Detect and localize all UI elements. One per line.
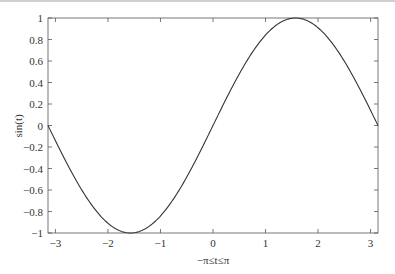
sine-chart: −3−2−10123 −1−0.8−0.6−0.4−0.200.20.40.60… — [0, 0, 395, 274]
x-tick-labels: −3−2−10123 — [50, 237, 374, 249]
x-tick-label: 2 — [315, 237, 321, 249]
y-tick-label: −1 — [31, 227, 43, 239]
y-tick-label: 1 — [38, 12, 44, 24]
y-tick-label: 0.4 — [29, 77, 43, 89]
x-tick-label: 0 — [210, 237, 216, 249]
y-tick-label: 0 — [38, 120, 44, 132]
y-tick-label: −0.6 — [23, 184, 43, 196]
y-tick-label: 0.2 — [29, 98, 43, 110]
x-tick-label: −3 — [50, 237, 62, 249]
x-tick-label: 3 — [368, 237, 374, 249]
x-tick-label: −1 — [155, 237, 167, 249]
y-axis-label: sin(t) — [12, 114, 25, 138]
y-tick-label: 0.8 — [29, 34, 43, 46]
y-tick-label: −0.4 — [23, 163, 43, 175]
y-tick-label: −0.8 — [23, 206, 43, 218]
x-tick-label: 1 — [263, 237, 269, 249]
y-tick-label: −0.2 — [23, 141, 43, 153]
x-tick-label: −2 — [102, 237, 114, 249]
sine-curve — [48, 18, 378, 233]
x-axis-label: −π≤t≤π — [197, 254, 230, 266]
y-tick-labels: −1−0.8−0.6−0.4−0.200.20.40.60.81 — [23, 12, 43, 239]
y-tick-label: 0.6 — [29, 55, 43, 67]
